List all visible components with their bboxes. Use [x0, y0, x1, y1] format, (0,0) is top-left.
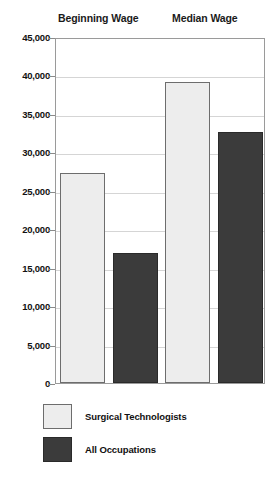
- gridline: [56, 116, 264, 117]
- legend-swatch-icon-dark: [43, 437, 72, 462]
- group-header-beginning-wage: Beginning Wage: [58, 12, 138, 24]
- bar: [218, 132, 263, 383]
- legend-swatch-icon-light: [43, 404, 72, 429]
- y-axis-tick-label: 45,000: [0, 32, 50, 43]
- legend-label-surgical-technologists: Surgical Technologists: [85, 411, 187, 422]
- y-axis-tick-label: 10,000: [0, 301, 50, 312]
- y-axis-tick-label: 40,000: [0, 70, 50, 81]
- y-axis-tick-label: 25,000: [0, 186, 50, 197]
- bar: [113, 253, 158, 383]
- y-axis-tick-label: 30,000: [0, 147, 50, 158]
- bar: [60, 173, 105, 383]
- y-axis-tick-mark: [49, 384, 55, 385]
- y-axis-tick-label: 0: [0, 378, 50, 389]
- group-header-median-wage: Median Wage: [172, 12, 238, 24]
- y-axis-tick-label: 20,000: [0, 224, 50, 235]
- legend-label-all-occupations: All Occupations: [85, 444, 156, 455]
- y-axis-tick-label: 15,000: [0, 263, 50, 274]
- wage-comparison-bar-chart: Beginning Wage Median Wage 05,00010,0001…: [0, 0, 280, 478]
- y-axis-tick-label: 35,000: [0, 109, 50, 120]
- gridline: [56, 77, 264, 78]
- plot-area: [55, 38, 265, 384]
- bar: [165, 82, 210, 383]
- y-axis-tick-label: 5,000: [0, 340, 50, 351]
